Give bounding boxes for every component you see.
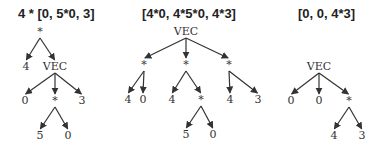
leaf-node: 3	[359, 129, 366, 142]
leaf-node: 4	[23, 60, 30, 73]
multiply-node: *	[52, 94, 58, 107]
leaf-node: 0	[22, 94, 29, 107]
tree-edge	[26, 38, 40, 60]
multiply-node: *	[226, 58, 232, 71]
multiply-node: *	[346, 94, 352, 107]
tree-edge	[145, 38, 186, 58]
leaf-node: 4	[169, 93, 176, 106]
vec-node: VEC	[42, 60, 67, 73]
tree-edge	[128, 71, 144, 93]
multiply-node: *	[198, 93, 204, 106]
leaf-node: 4	[125, 93, 132, 106]
tree-edge	[229, 71, 230, 93]
tree-edge	[186, 38, 228, 58]
leaf-node: 5	[183, 128, 190, 141]
tree-edge	[201, 106, 213, 128]
tree-edge	[40, 38, 55, 60]
leaf-node: 0	[65, 129, 72, 142]
tree-edge	[143, 71, 144, 93]
multiply-node: *	[183, 58, 189, 71]
vec-node: VEC	[306, 60, 331, 73]
tree-edge	[40, 107, 55, 129]
leaf-node: 4	[227, 93, 234, 106]
leaf-node: 4	[331, 129, 338, 142]
leaf-node: 0	[210, 128, 217, 141]
leaf-node: 3	[255, 93, 262, 106]
leaf-node: 5	[37, 129, 44, 142]
tree-edge	[334, 107, 349, 129]
tree-edge	[186, 106, 201, 128]
leaf-node: 0	[288, 94, 295, 107]
tree-edge	[349, 107, 362, 129]
tree-edge	[229, 71, 257, 93]
tree-edge	[319, 73, 348, 94]
multiply-node: *	[37, 25, 43, 38]
leaf-node: 3	[79, 94, 86, 107]
tree-edge	[55, 107, 68, 129]
leaf-node: 0	[140, 93, 147, 106]
tree-edge	[186, 71, 201, 93]
expression-trees-diagram: *4VEC0*350VEC***404*4350VEC00*43	[0, 0, 386, 151]
vec-node: VEC	[173, 25, 198, 38]
tree-edge	[55, 73, 81, 94]
tree-edge	[292, 73, 319, 94]
multiply-node: *	[141, 58, 147, 71]
leaf-node: 0	[316, 94, 323, 107]
tree-edge	[26, 73, 55, 94]
tree-edge	[172, 71, 186, 93]
